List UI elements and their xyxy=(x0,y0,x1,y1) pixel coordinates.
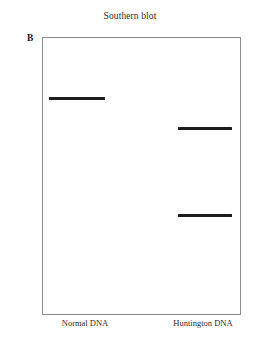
figure-title: Southern blot xyxy=(0,11,260,21)
huntington-dna-normal-allele-band xyxy=(178,214,232,217)
lane-label-normal-dna: Normal DNA xyxy=(62,318,109,328)
southern-blot-figure: Southern blot B Normal DNAHuntington DNA xyxy=(0,0,260,342)
normal-dna-normal-allele-band xyxy=(49,97,105,100)
lane-label-huntington-dna: Huntington DNA xyxy=(173,318,232,328)
gel-box xyxy=(42,37,241,315)
panel-label: B xyxy=(27,33,33,43)
huntington-dna-expanded-allele-band xyxy=(178,127,232,130)
